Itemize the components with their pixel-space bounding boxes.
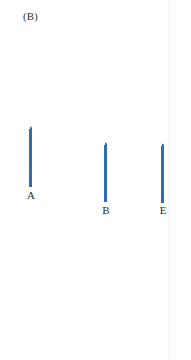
bar-label-b: B (99, 204, 113, 216)
bar-label-a: A (24, 189, 38, 201)
bar-e (161, 146, 164, 203)
bar-label-e: E (156, 204, 170, 216)
bar-a (29, 129, 32, 187)
bar-b (104, 145, 107, 202)
panel-divider (169, 0, 170, 360)
panel-label: (B) (23, 10, 38, 23)
